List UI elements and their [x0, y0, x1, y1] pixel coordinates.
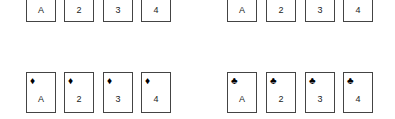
card-rank: 2 — [267, 5, 295, 15]
card-diamond-a[interactable]: ♦A — [26, 72, 56, 113]
card-rank: A — [27, 5, 55, 15]
card-rank: 4 — [344, 5, 372, 15]
card-rank: A — [228, 5, 256, 15]
card-rank: A — [27, 94, 55, 104]
card-rank: 3 — [104, 94, 132, 104]
club-icon: ♣ — [231, 76, 238, 86]
card-club-4[interactable]: ♣4 — [343, 72, 373, 113]
card-rank: 3 — [104, 5, 132, 15]
club-icon: ♣ — [270, 76, 277, 86]
club-icon: ♣ — [347, 76, 354, 86]
club-icon: ♣ — [309, 76, 316, 86]
card-rank: 4 — [142, 5, 170, 15]
card-top-left-3[interactable]: 3 — [103, 0, 133, 22]
card-rank: 4 — [344, 94, 372, 104]
card-top-right-3[interactable]: 3 — [305, 0, 335, 22]
card-rank: A — [228, 94, 256, 104]
diamond-icon: ♦ — [68, 76, 73, 86]
card-rank: 3 — [306, 5, 334, 15]
card-club-2[interactable]: ♣2 — [266, 72, 296, 113]
card-top-left-2[interactable]: 2 — [64, 0, 94, 22]
diamond-icon: ♦ — [107, 76, 112, 86]
card-rank: 3 — [306, 94, 334, 104]
card-club-a[interactable]: ♣A — [227, 72, 257, 113]
card-club-3[interactable]: ♣3 — [305, 72, 335, 113]
card-diamond-4[interactable]: ♦4 — [141, 72, 171, 113]
diamond-icon: ♦ — [30, 76, 35, 86]
card-top-right-2[interactable]: 2 — [266, 0, 296, 22]
card-top-right-a[interactable]: A — [227, 0, 257, 22]
card-top-right-4[interactable]: 4 — [343, 0, 373, 22]
diamond-icon: ♦ — [145, 76, 150, 86]
card-rank: 2 — [65, 5, 93, 15]
card-rank: 2 — [65, 94, 93, 104]
card-rank: 2 — [267, 94, 295, 104]
card-diamond-2[interactable]: ♦2 — [64, 72, 94, 113]
card-rank: 4 — [142, 94, 170, 104]
card-diamond-3[interactable]: ♦3 — [103, 72, 133, 113]
card-top-left-4[interactable]: 4 — [141, 0, 171, 22]
card-top-left-a[interactable]: A — [26, 0, 56, 22]
